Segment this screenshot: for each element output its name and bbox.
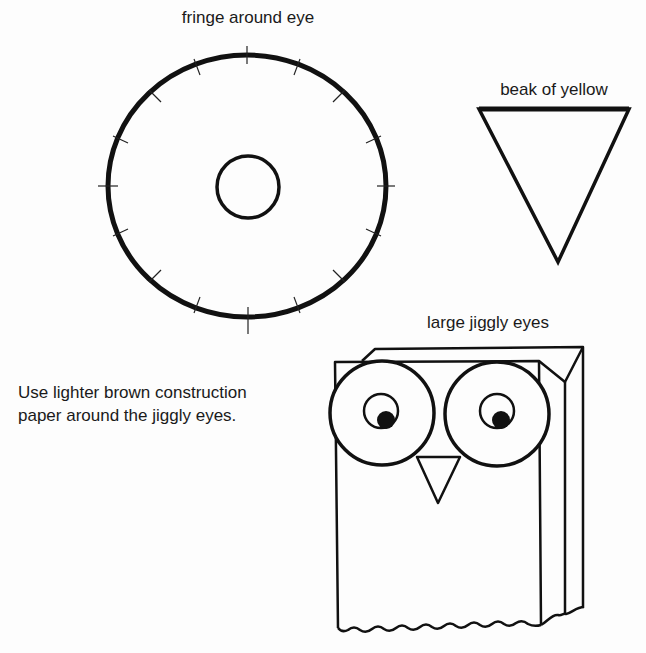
instructions-line-1: Use lighter brown construction <box>18 381 318 404</box>
right-pupil <box>492 411 510 429</box>
jiggly-eyes-label: large jiggly eyes <box>398 313 578 333</box>
owl-paper-bag <box>330 347 584 632</box>
beak-triangle-template <box>479 109 629 262</box>
fringe-label: fringe around eye <box>0 8 496 28</box>
fringe-eye-template <box>98 46 395 334</box>
left-pupil <box>377 411 395 429</box>
instructions-text: Use lighter brown construction paper aro… <box>18 381 318 427</box>
bag-side-fold <box>539 347 583 382</box>
instructions-line-2: paper around the jiggly eyes. <box>18 404 318 427</box>
bag-wavy-bottom <box>338 621 541 632</box>
outer-fringe-circle <box>108 55 386 317</box>
owl-beak <box>417 457 460 503</box>
fringe-tick-marks <box>98 46 395 334</box>
beak-label: beak of yellow <box>478 80 630 100</box>
craft-worksheet: fringe around eye beak of yellow large j… <box>0 0 646 653</box>
inner-eye-circle <box>217 156 279 218</box>
